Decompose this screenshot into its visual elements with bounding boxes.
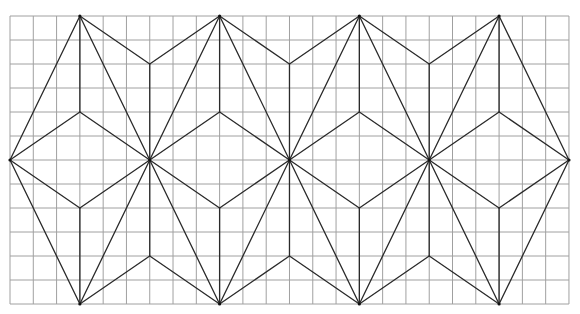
grid-pattern-diagram bbox=[0, 0, 580, 314]
vertex-dot bbox=[218, 14, 221, 17]
vertex-dot bbox=[358, 14, 361, 17]
vertex-dot bbox=[218, 302, 221, 305]
vertex-dot bbox=[288, 158, 291, 161]
vertex-dot bbox=[497, 302, 500, 305]
vertex-dot bbox=[428, 158, 431, 161]
vertex-dot bbox=[497, 14, 500, 17]
vertex-dot bbox=[358, 302, 361, 305]
vertex-dot bbox=[148, 158, 151, 161]
vertex-dot bbox=[78, 302, 81, 305]
vertex-dot bbox=[78, 14, 81, 17]
vertex-dot bbox=[567, 158, 570, 161]
vertex-dot bbox=[8, 158, 11, 161]
